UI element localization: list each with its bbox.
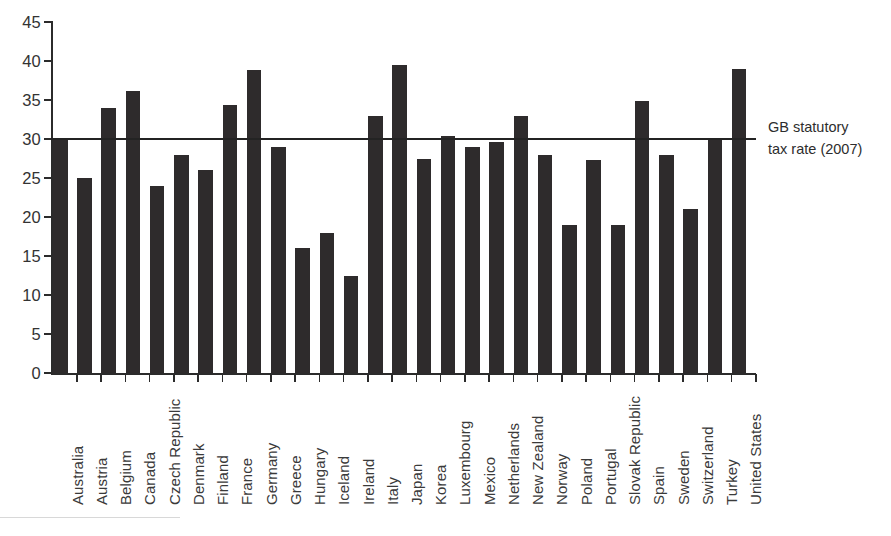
x-axis-category-label: Belgium (118, 450, 133, 505)
bar (562, 225, 577, 373)
x-axis-tick (513, 374, 515, 382)
x-axis-tick (634, 374, 636, 382)
x-axis-tick (610, 374, 612, 382)
y-axis-tick-label-text: 5 (3, 326, 41, 343)
x-axis-tick (319, 374, 321, 382)
x-axis-tick (561, 374, 563, 382)
y-axis-tick-label: 0 (0, 365, 41, 382)
x-axis-category-label: Finland (215, 455, 230, 505)
bar (198, 170, 213, 373)
bar (683, 209, 698, 373)
bar (344, 276, 359, 374)
x-axis-tick (658, 374, 660, 382)
x-axis-category-label: Italy (385, 477, 400, 505)
x-axis-category-label: Czech Republic (167, 399, 182, 505)
y-axis-tick (44, 177, 52, 179)
bar (295, 248, 310, 373)
x-axis-category-label: Luxembourg (457, 421, 472, 505)
bar (368, 116, 383, 373)
x-axis-tick (197, 374, 199, 382)
bar (514, 116, 529, 373)
y-axis-tick-label-text: 35 (3, 92, 41, 109)
x-axis-tick (731, 374, 733, 382)
bar (150, 186, 165, 373)
reference-line-label-line2: tax rate (2007) (768, 139, 862, 159)
x-axis-tick (464, 374, 466, 382)
y-axis-tick-label-text: 40 (3, 53, 41, 70)
y-axis-tick (44, 372, 52, 374)
x-axis-category-label: Portugal (603, 448, 618, 505)
x-axis-category-label: Japan (409, 464, 424, 505)
x-axis-tick (416, 374, 418, 382)
footer-divider (0, 517, 180, 518)
y-axis-tick (44, 21, 52, 23)
x-axis-tick (343, 374, 345, 382)
x-axis-tick (270, 374, 272, 382)
x-axis-tick (755, 374, 757, 382)
bar-chart-figure: 051015202530354045 AustraliaAustriaBelgi… (0, 0, 891, 536)
bar (417, 159, 432, 374)
bar (489, 142, 504, 373)
bar (53, 139, 68, 373)
x-axis-tick (585, 374, 587, 382)
y-axis-tick-label: 40 (0, 53, 41, 70)
x-axis-tick (173, 374, 175, 382)
x-axis-category-label: Canada (142, 452, 157, 505)
x-axis-category-label: Iceland (336, 456, 351, 505)
bar (732, 69, 747, 373)
x-axis-tick (294, 374, 296, 382)
reference-line-label-line1: GB statutory (768, 117, 849, 137)
x-axis-tick (149, 374, 151, 382)
bar (635, 101, 650, 373)
bar (708, 139, 723, 373)
bar (77, 178, 92, 373)
bar (223, 105, 238, 373)
y-axis-tick (44, 99, 52, 101)
bar (247, 70, 262, 373)
y-axis-tick (44, 333, 52, 335)
x-axis-category-label: Sweden (676, 450, 691, 505)
x-axis-category-label: Mexico (482, 457, 497, 505)
x-axis-category-label: Denmark (191, 443, 206, 505)
y-axis-tick-label: 35 (0, 92, 41, 109)
y-axis-tick-label-text: 15 (3, 248, 41, 265)
x-axis-tick (367, 374, 369, 382)
x-axis-category-label: United States (748, 414, 763, 505)
y-axis-tick-label: 45 (0, 14, 41, 31)
x-axis-category-label: Germany (264, 443, 279, 505)
x-axis-tick (488, 374, 490, 382)
reference-line-gb-statutory-rate (51, 138, 756, 140)
x-axis-category-label: Switzerland (700, 426, 715, 505)
x-axis-tick (76, 374, 78, 382)
y-axis-tick (44, 294, 52, 296)
y-axis-tick-label-text: 25 (3, 170, 41, 187)
y-axis-tick (44, 60, 52, 62)
x-axis-category-label: Greece (288, 455, 303, 505)
bar (586, 160, 601, 373)
bar (538, 155, 553, 373)
y-axis-tick-label-text: 45 (3, 14, 41, 31)
x-axis-category-label: Korea (433, 464, 448, 505)
y-axis-tick-label: 30 (0, 131, 41, 148)
y-axis-tick-label: 25 (0, 170, 41, 187)
x-axis-tick (222, 374, 224, 382)
bar (659, 155, 674, 373)
bar (441, 136, 456, 373)
x-axis-line (51, 373, 756, 375)
y-axis-tick (44, 255, 52, 257)
bar (320, 233, 335, 373)
y-axis-tick-label-text: 30 (3, 131, 41, 148)
x-axis-tick (440, 374, 442, 382)
bar (392, 65, 407, 373)
bar (174, 155, 189, 373)
x-axis-category-label: Slovak Republic (627, 396, 642, 505)
x-axis-tick (100, 374, 102, 382)
y-axis-tick-label-text: 20 (3, 209, 41, 226)
bar (611, 225, 626, 373)
x-axis-tick (125, 374, 127, 382)
y-axis-tick-label: 15 (0, 248, 41, 265)
bar (271, 147, 286, 373)
x-axis-category-label: New Zealand (530, 416, 545, 505)
x-axis-category-label: Australia (70, 446, 85, 505)
y-axis-tick-label: 5 (0, 326, 41, 343)
